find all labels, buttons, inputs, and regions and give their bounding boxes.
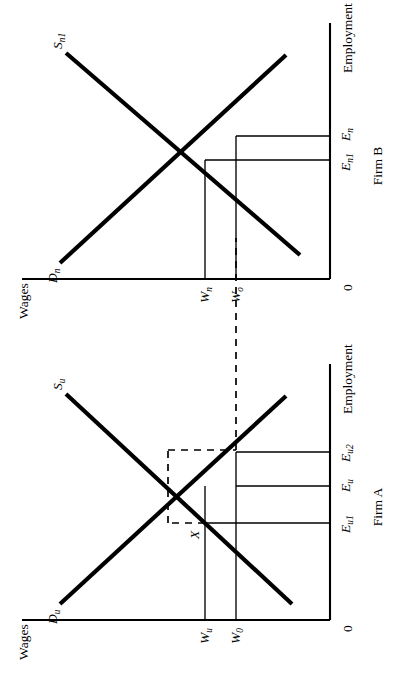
firm-a-point-label-x: X [187, 530, 202, 540]
firm-a-supply-label: Su [50, 378, 67, 390]
firm-b-demand-curve [60, 55, 286, 263]
firm-a-wage-tick-wu: Wu [197, 628, 214, 644]
panel-firm-a: Du Su X Wu W0 Eu1 [0, 341, 417, 682]
firm-b-emp-tick-en: En [338, 128, 355, 142]
panel-firm-b: Dn Sn1 Wn Wo En1 En [0, 0, 417, 341]
figure-canvas: Du Su X Wu W0 Eu1 [0, 0, 417, 682]
firm-b-emp-tick-en1: En1 [338, 153, 355, 172]
firm-a-origin-label: 0 [340, 625, 355, 632]
firm-b-origin-label: 0 [340, 284, 355, 291]
firm-a-demand-label: Du [45, 609, 62, 625]
firm-a-emp-tick-eu2: Eu2 [338, 444, 355, 463]
firm-a-wage-tick-w0: W0 [228, 628, 245, 644]
firm-b-caption: Firm B [370, 147, 385, 186]
firm-b-y-axis-label: Wages [16, 283, 31, 319]
firm-a-caption: Firm A [370, 487, 385, 526]
firm-a-emp-tick-eu1: Eu1 [338, 515, 355, 534]
firm-a-supply-curve [66, 394, 292, 604]
firm-a-plot: Du Su X Wu W0 Eu1 [0, 341, 417, 682]
firm-b-demand-label: Dn [45, 268, 62, 284]
firm-a-y-axis-label: Wages [16, 624, 31, 660]
firm-a-demand-curve [60, 396, 286, 604]
firm-a-emp-tick-eu: Eu [338, 479, 355, 493]
firm-b-wage-tick-wo: Wo [228, 287, 245, 303]
firm-b-wage-tick-wn: Wn [197, 287, 214, 303]
firm-a-x-axis-label: Employment [340, 344, 355, 414]
firm-b-x-axis-label: Employment [340, 3, 355, 73]
rotated-figure-group: Du Su X Wu W0 Eu1 [0, 0, 417, 682]
firm-b-supply-label: Sn1 [50, 33, 67, 49]
firm-b-plot: Dn Sn1 Wn Wo En1 En [0, 0, 417, 341]
